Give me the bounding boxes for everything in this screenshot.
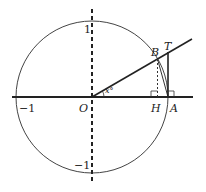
chord-ba — [158, 59, 169, 97]
unit-circle-diagram: 1 −1 −1 O x° B T H A — [0, 0, 206, 192]
label-a: A — [169, 102, 178, 115]
label-x-neg: −1 — [19, 102, 35, 115]
label-angle: x° — [105, 86, 114, 95]
label-h: H — [150, 102, 161, 115]
label-origin: O — [79, 102, 88, 115]
label-y-pos: 1 — [84, 23, 91, 36]
label-y-neg: −1 — [74, 159, 90, 172]
label-b: B — [150, 46, 159, 59]
